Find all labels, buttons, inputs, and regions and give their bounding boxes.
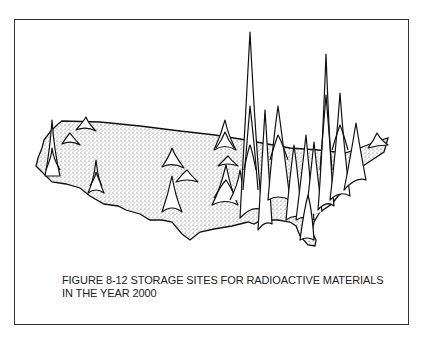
figure-caption: FIGURE 8-12 STORAGE SITES FOR RADIOACTIV… [62,274,384,300]
caption-line-1: FIGURE 8-12 STORAGE SITES FOR RADIOACTIV… [62,274,384,287]
caption-line-2: IN THE YEAR 2000 [62,287,384,300]
